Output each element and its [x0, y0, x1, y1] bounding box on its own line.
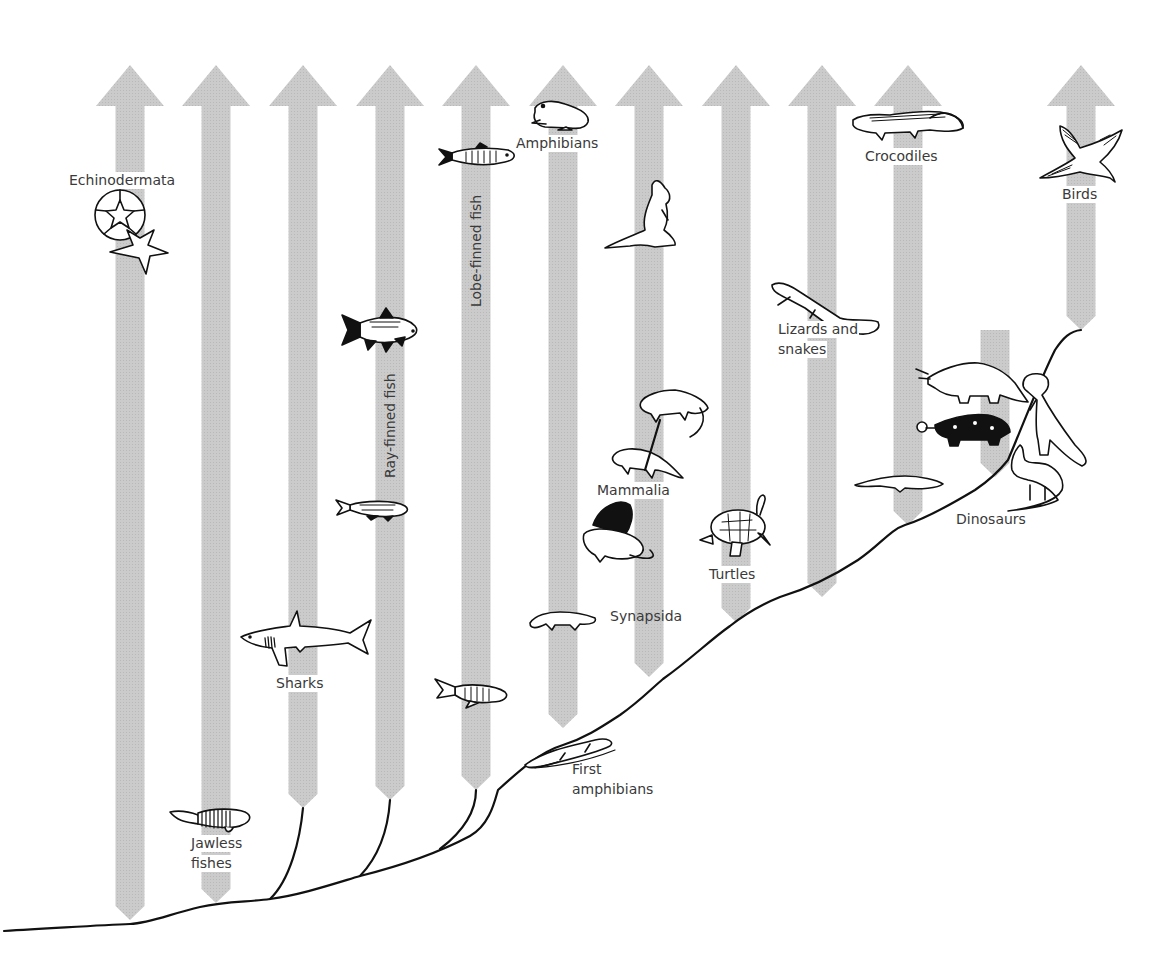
label-synapsida: Synapsida: [609, 608, 683, 625]
sand-dollar-icon: [95, 190, 145, 240]
early-archosaur-icon: [855, 476, 943, 492]
ankylosaur-icon: [917, 415, 1010, 446]
label-mammalia: Mammalia: [596, 482, 671, 499]
label-first-amphibians-line2: amphibians: [571, 781, 654, 798]
coelacanth-icon: [439, 143, 514, 165]
label-lizards-and-snakes-line1: Lizards and: [777, 321, 859, 338]
triceratops-icon: [916, 363, 1028, 403]
label-jawless-fishes-line1: Jawless: [190, 835, 243, 852]
arrow-sharks: [269, 65, 337, 808]
branch-ray-finned: [360, 800, 390, 876]
label-lizards-and-snakes-line2: snakes: [777, 341, 827, 358]
label-first-amphibians-line1: First: [571, 761, 602, 778]
label-lobe-finned-fish: Lobe-finned fish: [468, 195, 484, 307]
arrow-mammals: [615, 65, 683, 677]
label-turtles: Turtles: [708, 566, 756, 583]
arrow-lobe-finned-fish: [442, 65, 510, 790]
arrow-amphibians: [529, 65, 597, 728]
label-dinosaurs: Dinosaurs: [955, 511, 1027, 528]
branch-sharks: [270, 808, 303, 899]
theropod-icon: [1023, 374, 1086, 466]
label-ray-finned-fish: Ray-finned fish: [382, 373, 398, 478]
sauropod-icon: [1008, 445, 1063, 511]
label-echinodermata: Echinodermata: [68, 172, 176, 189]
label-amphibians: Amphibians: [515, 135, 599, 152]
arrow-jawless-fishes: [182, 65, 250, 903]
label-birds: Birds: [1061, 186, 1098, 203]
branch-lobe-finned: [440, 790, 476, 849]
label-jawless-fishes-line2: fishes: [190, 855, 233, 872]
label-crocodiles: Crocodiles: [864, 148, 939, 165]
label-sharks: Sharks: [275, 675, 325, 692]
